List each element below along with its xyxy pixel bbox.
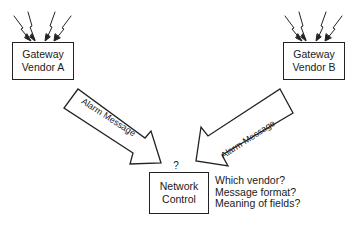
gateway-b-line1: Gateway <box>293 48 334 61</box>
lightning-icon-group-b <box>285 12 342 41</box>
lightning-icon <box>316 12 326 41</box>
alarm-arrow-a <box>64 89 161 164</box>
question-which-vendor: Which vendor? <box>215 175 300 187</box>
question-mark-icon: ? <box>170 160 182 172</box>
lightning-icon <box>14 16 31 41</box>
lightning-icon-group-a <box>14 12 71 41</box>
network-control-box: Network Control <box>149 172 209 214</box>
gateway-a-line2: Vendor A <box>22 61 65 74</box>
gateway-vendor-a-box: Gateway Vendor A <box>12 42 74 80</box>
question-meaning-of-fields: Meaning of fields? <box>215 198 300 210</box>
open-questions: Which vendor? Message format? Meaning of… <box>215 175 300 210</box>
lightning-icon <box>285 16 302 41</box>
alarm-arrow-b <box>196 89 293 166</box>
lightning-icon <box>45 12 55 41</box>
gateway-a-line1: Gateway <box>22 48 63 61</box>
diagram-canvas: Gateway Vendor A Gateway Vendor B Networ… <box>0 0 355 225</box>
network-control-line2: Control <box>162 193 196 206</box>
lightning-icon <box>54 16 71 41</box>
network-control-line1: Network <box>160 180 199 193</box>
gateway-vendor-b-box: Gateway Vendor B <box>283 42 345 80</box>
lightning-icon <box>325 16 342 41</box>
gateway-b-line2: Vendor B <box>292 61 335 74</box>
